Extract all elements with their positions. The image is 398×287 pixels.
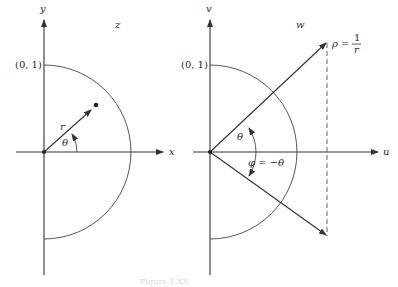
w-plane-panel: v u w (0, 1) θ φ = −θ ρ = 1 r — [181, 3, 389, 275]
theta-label: θ — [237, 131, 243, 142]
rho-numerator: 1 — [354, 32, 360, 43]
u-axis-label: u — [383, 146, 389, 157]
radius-label: r — [60, 121, 66, 132]
v-axis-label: v — [206, 3, 212, 14]
rho-vector-upper — [210, 43, 326, 152]
rho-equation: ρ = 1 r — [331, 32, 361, 55]
conformal-map-diagram: y x z (0, 1) r θ v u w (0, 1) θ φ = −θ ρ… — [0, 0, 398, 287]
y-axis-label: y — [39, 3, 46, 14]
rho-denominator: r — [354, 44, 360, 55]
theta-angle-arc — [249, 128, 256, 152]
point-z — [94, 103, 99, 108]
rho-label: ρ = — [331, 38, 349, 49]
x-axis-label: x — [169, 146, 175, 157]
theta-label: θ — [62, 137, 68, 148]
figure-caption: Figure 1.XX — [140, 277, 189, 286]
theta-angle-arc — [72, 134, 77, 152]
unit-point-label: (0, 1) — [15, 59, 42, 70]
z-plane-panel: y x z (0, 1) r θ — [15, 3, 175, 275]
z-plane-label: z — [114, 19, 121, 30]
unit-point-label: (0, 1) — [181, 59, 208, 70]
origin-dot — [208, 150, 212, 154]
w-plane-label: w — [296, 19, 305, 30]
origin-dot — [42, 150, 46, 154]
phi-label: φ = −θ — [248, 157, 284, 168]
